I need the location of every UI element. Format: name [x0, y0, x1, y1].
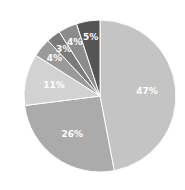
slice-label: 4%	[47, 53, 62, 63]
slice-label: 47%	[136, 86, 158, 96]
slice-label: 11%	[43, 80, 65, 90]
pie-chart: 47%26%11%4%3%4%5%	[0, 0, 185, 190]
slice-label: 26%	[62, 129, 84, 139]
slice-label: 5%	[83, 32, 98, 42]
slice-label: 4%	[67, 37, 82, 47]
